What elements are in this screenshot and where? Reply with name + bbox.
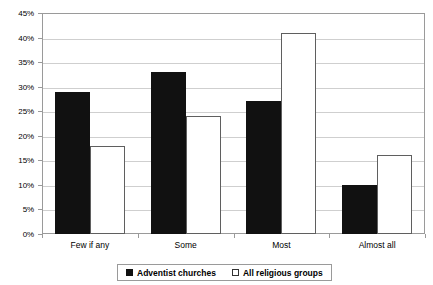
bars-layer: [42, 13, 425, 234]
y-tick-label: 40%: [18, 33, 34, 42]
y-tick-mark: [38, 160, 42, 161]
y-tick-label: 25%: [18, 107, 34, 116]
x-tick-label: Few if any: [71, 240, 110, 250]
legend-entry: Adventist churches: [126, 268, 216, 278]
bar: [90, 146, 125, 234]
x-tick-mark: [138, 234, 139, 238]
y-tick-label: 30%: [18, 82, 34, 91]
y-axis: 0%5%10%15%20%25%30%35%40%45%: [0, 13, 38, 234]
bar-group: [234, 13, 330, 234]
bar: [342, 185, 377, 234]
y-tick-mark: [38, 185, 42, 186]
bar: [377, 155, 412, 234]
bar: [281, 33, 316, 234]
y-tick-label: 5%: [23, 205, 34, 214]
y-tick-label: 10%: [18, 180, 34, 189]
legend-swatch-icon: [232, 269, 239, 276]
x-tick-mark: [329, 234, 330, 238]
x-tick-mark: [234, 234, 235, 238]
y-tick-mark: [38, 13, 42, 14]
bar: [151, 72, 186, 234]
x-tick-label: Some: [175, 240, 197, 250]
chart-legend: Adventist churchesAll religious groups: [117, 264, 332, 281]
legend-entry: All religious groups: [232, 268, 323, 278]
y-tick-mark: [38, 111, 42, 112]
y-tick-mark: [38, 38, 42, 39]
y-tick-label: 0%: [23, 230, 34, 239]
x-tick-mark: [42, 234, 43, 238]
bar-group: [42, 13, 138, 234]
x-tick-label: Almost all: [359, 240, 396, 250]
y-tick-mark: [38, 136, 42, 137]
legend-swatch-icon: [126, 269, 133, 276]
bar-chart: 0%5%10%15%20%25%30%35%40%45% Few if anyS…: [0, 0, 433, 285]
bar: [246, 101, 281, 234]
x-axis: Few if anySomeMostAlmost all: [42, 240, 425, 254]
y-tick-label: 20%: [18, 131, 34, 140]
x-tick-label: Most: [272, 240, 290, 250]
y-tick-label: 15%: [18, 156, 34, 165]
legend-label: Adventist churches: [137, 268, 216, 278]
x-tick-mark: [425, 234, 426, 238]
legend-label: All religious groups: [243, 268, 323, 278]
y-tick-label: 35%: [18, 58, 34, 67]
y-tick-label: 45%: [18, 9, 34, 18]
y-tick-mark: [38, 62, 42, 63]
y-tick-mark: [38, 209, 42, 210]
y-tick-mark: [38, 87, 42, 88]
bar-group: [329, 13, 425, 234]
bar: [55, 92, 90, 234]
bar-group: [138, 13, 234, 234]
bar: [186, 116, 221, 234]
